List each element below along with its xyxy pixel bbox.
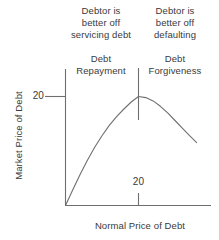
debt-price-curve — [66, 97, 197, 206]
x-axis-title: Normal Price of Debt — [65, 220, 215, 232]
x-axis-tick-label: 20 — [128, 176, 149, 188]
y-axis-title: Market Price of Debt — [13, 86, 26, 186]
plot-area — [0, 0, 219, 240]
debt-laffer-curve-figure: Debtor is better off servicing debt Debt… — [0, 0, 219, 240]
